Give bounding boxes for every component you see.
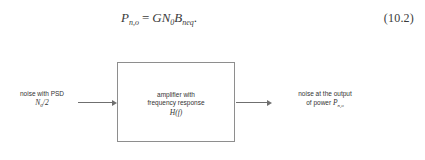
output-label-prefix: of power — [306, 99, 333, 106]
input-arrow-shaft — [78, 102, 114, 103]
input-psd-subscript: 0 — [40, 103, 43, 108]
output-label: noise at the output of power Pn,o — [277, 90, 373, 108]
equation-psd-symbol: N — [162, 10, 171, 25]
block-diagram: noise with PSD N0/2 amplifier with frequ… — [0, 55, 425, 150]
amplifier-block: amplifier with frequency response H(f) — [117, 62, 235, 142]
equation-psd-subscript: 0 — [170, 18, 174, 27]
output-arrow-head-icon — [267, 100, 272, 106]
input-label: noise with PSD N0/2 — [9, 90, 75, 108]
input-label-line1: noise with PSD — [20, 90, 64, 97]
input-label-math: N0/2 — [9, 99, 75, 109]
equation-row: Pn,o=GN0Bneq. (10.2) — [0, 8, 425, 32]
equation-bandwidth-subscript: neq — [182, 18, 194, 27]
input-psd-suffix: /2 — [43, 98, 49, 107]
equation-operator: = — [139, 10, 152, 25]
equation-lhs-symbol: P — [121, 10, 129, 25]
output-power-symbol: P — [333, 98, 338, 107]
output-power-subscript: n,o — [338, 103, 344, 108]
amplifier-transfer-function: H(f) — [118, 108, 234, 118]
amplifier-label-line1: amplifier with — [118, 91, 234, 99]
input-arrow — [78, 98, 118, 107]
equation-number: (10.2) — [384, 8, 414, 28]
amplifier-block-label: amplifier with frequency response H(f) — [118, 91, 234, 118]
output-arrow-shaft — [236, 102, 269, 103]
equation-gain-symbol: G — [152, 10, 161, 25]
output-label-line1: noise at the output — [277, 90, 373, 99]
output-label-line2: of power Pn,o — [277, 99, 373, 109]
display-equation: Pn,o=GN0Bneq. — [0, 8, 318, 30]
equation-lhs-subscript: n,o — [129, 18, 139, 27]
equation-terminator: . — [194, 10, 197, 25]
output-arrow — [236, 98, 274, 107]
amplifier-label-line2: frequency response — [118, 99, 234, 107]
